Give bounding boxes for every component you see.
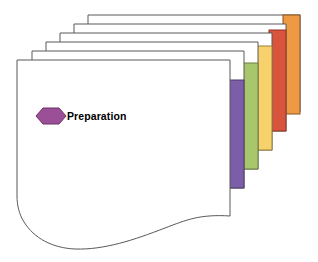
card-layer-1-front-body (17, 60, 230, 249)
hexagon-icon-shape (36, 108, 66, 124)
stacked-cards-diagram: Preparation (0, 0, 318, 262)
card-layer-1-front[interactable] (17, 60, 230, 249)
page-title: Preparation (67, 110, 126, 123)
stack-illustration (0, 0, 318, 262)
hexagon-icon (36, 108, 66, 124)
